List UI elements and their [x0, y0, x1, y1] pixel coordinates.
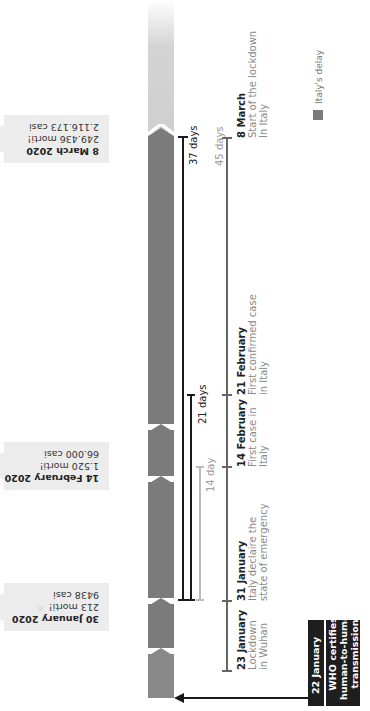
callout-deaths: 1.520 morti!: [12, 460, 99, 472]
callout-deaths: 213 morti!: [12, 601, 99, 613]
event-date: 31 January: [236, 503, 247, 601]
event-8-march: 8 March Start of the lockdown In Italy: [236, 31, 269, 138]
callout-30-january: 30 January 2020 213 morti! 9438 casi: [4, 583, 109, 631]
timeline-bar-segment: [148, 654, 174, 698]
event-description: First case in: [247, 399, 258, 467]
legend-label: Italy's delay: [314, 50, 324, 104]
callout-8-march: 8 March 2020 249.436 morti! 2.116.173 ca…: [4, 115, 109, 163]
who-line: human-to-human: [338, 608, 349, 700]
bracket-tick: [178, 136, 188, 138]
event-21-february: 21 February First confirmed case in Ital…: [236, 294, 269, 395]
bracket-label-21-days: 21 days: [197, 384, 208, 424]
who-arrow-line: [180, 697, 310, 699]
callout-date: 8 March 2020: [12, 145, 99, 157]
who-line: WHO certifies: [327, 608, 338, 700]
event-description: Start of the lockdown: [247, 31, 258, 138]
event-description: in Italy: [258, 294, 269, 395]
timeline-bar-segment: [148, 482, 174, 598]
bracket-21-days: [190, 394, 192, 600]
bracket-tick: [196, 599, 204, 601]
bracket-label-14-days: 14 day: [205, 458, 216, 492]
who-description-box: WHO certifies human-to-human transmissio…: [326, 620, 360, 706]
callout-cases: 2.116.173 casi: [12, 121, 99, 133]
event-23-january: 23 January Lockdown in Wuhan: [236, 610, 269, 670]
timeline-bar-segment: [148, 604, 174, 648]
event-date: 8 March: [236, 31, 247, 138]
event-description: First confirmed case: [247, 294, 258, 395]
bracket-tick: [187, 394, 195, 396]
bracket-label-37-days: 37 days: [188, 125, 199, 165]
event-tick-23-jan: [222, 670, 232, 672]
event-description: Lockdown: [247, 610, 258, 670]
bracket-label-45-days: 45 days: [214, 126, 225, 166]
chevron-up-icon: [148, 594, 174, 606]
timeline-bar-segment: [148, 136, 174, 424]
bracket-14-days: [199, 466, 201, 600]
who-date-box: 22 January: [308, 620, 324, 706]
legend-swatch-italys-delay: [313, 110, 323, 120]
event-tick-21-feb: [222, 394, 232, 396]
callout-cases: 9438 casi: [12, 589, 99, 601]
who-date: 22 January: [310, 637, 321, 694]
callout-14-february: 14 February 2020 1.520 morti! 66.000 cas…: [4, 442, 109, 490]
callout-date: 30 January 2020: [12, 613, 99, 625]
event-date: 21 February: [236, 294, 247, 395]
event-description: In Italy: [258, 31, 269, 138]
timeline-bar-segment: [148, 430, 174, 476]
chevron-up-icon: [148, 472, 174, 484]
event-date: 23 January: [236, 610, 247, 670]
arrow-left-icon: [174, 693, 184, 703]
event-date: 14 February: [236, 399, 247, 467]
event-description: in Wuhan: [258, 610, 269, 670]
who-line: transmission: [349, 608, 360, 700]
who-description: WHO certifies human-to-human transmissio…: [327, 608, 360, 700]
timeline-bar-future: [148, 0, 174, 132]
event-31-january: 31 January Italy declaire the state of e…: [236, 503, 269, 601]
callout-deaths: 249.436 morti!: [12, 133, 99, 145]
bracket-tick: [196, 466, 204, 468]
bracket-37-days: [182, 136, 184, 600]
chevron-up-icon: [148, 124, 174, 136]
callout-date: 14 February 2020: [12, 472, 99, 484]
chevron-up-icon: [148, 420, 174, 432]
chevron-up-icon: [148, 644, 174, 656]
event-description: state of emergency: [258, 503, 269, 601]
event-tick-31-jan: [222, 600, 232, 602]
event-tick-14-feb: [222, 466, 232, 468]
event-14-february: 14 February First case in Italy: [236, 399, 269, 467]
callout-cases: 66.000 casi: [12, 448, 99, 460]
bracket-45-days: [226, 137, 228, 671]
decorative-dot: [38, 606, 43, 611]
event-description: Italy declaire the: [247, 503, 258, 601]
bracket-tick: [187, 599, 195, 601]
event-description: Italy: [258, 399, 269, 467]
